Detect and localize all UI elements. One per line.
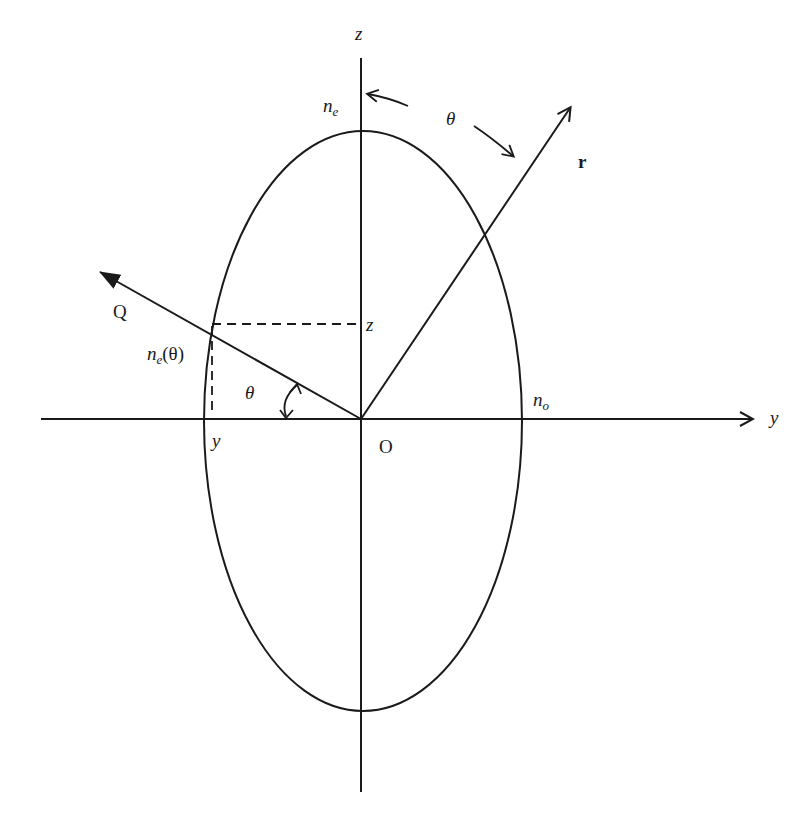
y-axis-label: y	[768, 407, 779, 428]
r-vector	[361, 108, 570, 419]
y-projection-label: y	[210, 430, 221, 451]
z-projection-label: z	[365, 314, 374, 335]
q-vector-label: Q	[113, 301, 127, 322]
theta-bottom-arrowhead-bottom	[280, 410, 293, 418]
ne-top-label: ne	[323, 95, 339, 119]
no-right-label: no	[533, 389, 550, 413]
q-vector	[100, 272, 361, 419]
ellipse-diagram: z y O ne no r Q ne(θ) θ θ z y	[0, 0, 809, 821]
theta-top-arc-left	[368, 94, 408, 106]
origin-label: O	[379, 436, 393, 457]
index-ellipse	[204, 131, 522, 711]
theta-top-label: θ	[446, 108, 455, 129]
z-axis-label: z	[354, 23, 363, 44]
theta-bottom-arrowhead-top	[290, 384, 301, 394]
theta-bottom-label: θ	[245, 382, 254, 403]
ne-theta-label: ne(θ)	[147, 343, 184, 367]
r-vector-label: r	[578, 151, 587, 172]
theta-top-arc-right	[474, 126, 513, 156]
